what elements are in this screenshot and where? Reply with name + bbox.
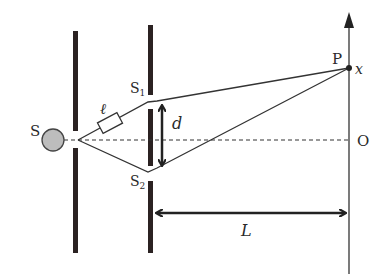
- origin-label: O: [357, 132, 369, 150]
- screen-axis-arrow-icon: [344, 12, 354, 28]
- distance-label: L: [240, 221, 252, 240]
- point-p-marker: [346, 65, 352, 71]
- source-label: S: [30, 122, 40, 140]
- filter-label: ℓ: [100, 100, 106, 118]
- first-barrier-lower: [73, 148, 78, 253]
- second-barrier-lower: [148, 181, 153, 253]
- slit2-label: S2: [130, 173, 145, 191]
- first-barrier-upper: [73, 31, 78, 131]
- double-slit-diagram: S S1 S2 ℓ d L P x O: [0, 0, 391, 274]
- ray-upper-path: [78, 68, 349, 140]
- second-barrier-middle: [148, 109, 153, 166]
- slit1-label: S1: [130, 80, 145, 98]
- second-barrier: [148, 25, 153, 253]
- point-p-label: P: [332, 50, 342, 68]
- separation-label: d: [172, 114, 182, 133]
- coordinate-label: x: [355, 61, 363, 77]
- second-barrier-upper: [148, 25, 153, 95]
- light-source: [42, 129, 64, 151]
- first-barrier: [73, 31, 78, 253]
